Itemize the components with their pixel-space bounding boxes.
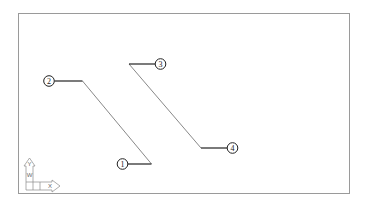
- callout-label: 1: [121, 160, 125, 169]
- ucs-w-label: W: [27, 172, 33, 178]
- viewport-frame: [19, 14, 350, 194]
- callout-label: 3: [159, 60, 163, 69]
- drawing-canvas[interactable]: 1 2 3 4 Y W X: [0, 0, 366, 204]
- ucs-x-label: X: [48, 183, 52, 189]
- callout-label: 4: [231, 144, 235, 153]
- callout-label: 2: [47, 77, 51, 86]
- ucs-y-label: Y: [27, 161, 31, 167]
